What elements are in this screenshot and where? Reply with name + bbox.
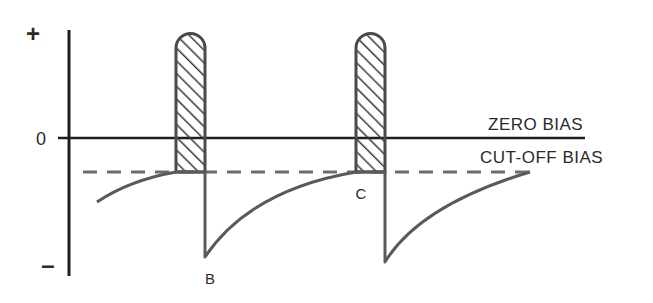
minus-label: – <box>41 251 54 278</box>
cut-off-bias-label: CUT-OFF BIAS <box>480 148 603 167</box>
zero-bias-label: ZERO BIAS <box>488 115 583 134</box>
point-b-label: B <box>205 270 215 287</box>
zero-label: 0 <box>36 129 46 149</box>
conduction-pulse-2 <box>356 34 385 173</box>
conduction-pulse-1 <box>176 34 205 173</box>
bias-waveform-diagram: + 0 – ZERO BIAS CUT-OFF BIAS B C <box>0 0 653 303</box>
point-c-label: C <box>356 185 367 202</box>
bias-waveform <box>97 172 530 262</box>
plus-label: + <box>26 20 40 47</box>
